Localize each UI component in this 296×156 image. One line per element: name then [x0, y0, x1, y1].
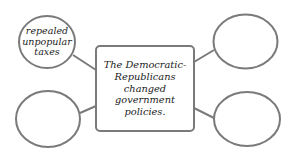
web-diagram: repealed unpopular taxes The Democratic-… — [0, 0, 296, 156]
connector-top-left — [73, 55, 96, 70]
center-text: The Democratic- Republicans changed gove… — [96, 46, 194, 131]
node-top-right — [214, 15, 278, 69]
node-text-line: repealed — [26, 26, 68, 37]
connector-bottom-right — [194, 108, 214, 118]
node-bottom-right — [214, 92, 280, 146]
center-text-line: The Democratic- — [104, 59, 186, 71]
center-text-line: Republicans — [115, 71, 176, 83]
node-text-line: taxes — [34, 47, 59, 58]
node-top-left-text: repealed unpopular taxes — [19, 16, 75, 68]
center-text-line: changed — [124, 83, 166, 95]
connector-top-right — [194, 50, 214, 62]
center-text-line: government — [115, 94, 175, 106]
center-text-line: policies. — [125, 106, 166, 118]
node-bottom-left — [16, 91, 80, 147]
connector-bottom-left — [80, 106, 96, 113]
